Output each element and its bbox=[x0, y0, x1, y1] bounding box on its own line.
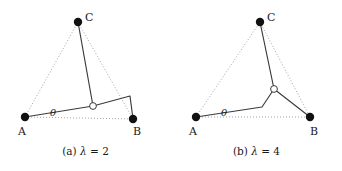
panel-b-vertex-B bbox=[306, 113, 314, 121]
panel-b-edge-AC bbox=[196, 22, 260, 117]
panel-b-caption: (b) λ = 4 bbox=[171, 146, 342, 157]
panel-b-label-A: A bbox=[189, 126, 197, 137]
panel-a-junction-point bbox=[90, 103, 97, 110]
panel-a-vertex-A bbox=[21, 113, 29, 121]
panel-a-dotted-triangle bbox=[25, 22, 133, 119]
panel-a-vertex-B bbox=[129, 115, 137, 123]
panel-a-caption-symbol: λ bbox=[80, 145, 87, 157]
figure-root: A B C θ (a) λ = 2 bbox=[0, 0, 342, 171]
panel-a-spur-junction-C bbox=[78, 22, 93, 106]
panel-a-edge-AC bbox=[25, 22, 78, 117]
panel-a-label-B: B bbox=[133, 126, 141, 137]
panel-b-vertex-C bbox=[256, 18, 264, 26]
panel-b-caption-relation: = bbox=[261, 145, 270, 157]
panel-b-caption-prefix: (b) bbox=[233, 145, 248, 157]
panel-a-path-A-junction-bend-B bbox=[25, 96, 133, 119]
panel-b-label-B: B bbox=[310, 126, 318, 137]
panel-a-caption-value: 2 bbox=[102, 145, 109, 157]
panel-a-label-A: A bbox=[18, 126, 26, 137]
panel-a-edge-AB bbox=[25, 117, 133, 119]
panel-b-angle-theta-label: θ bbox=[221, 108, 227, 118]
panel-a-label-C: C bbox=[85, 12, 93, 23]
panel-b-caption-value: 4 bbox=[273, 145, 280, 157]
panel-a-caption-relation: = bbox=[90, 145, 99, 157]
panel-b-label-C: C bbox=[267, 12, 275, 23]
panel-b-junction-point bbox=[271, 86, 278, 93]
panel-a-solid-network bbox=[25, 22, 133, 119]
panel-b-vertex-A bbox=[192, 113, 200, 121]
panel-b-spur-junction-C bbox=[260, 22, 274, 89]
panel-b-path-A-bend-junction-B bbox=[196, 89, 310, 117]
panel-a-caption-prefix: (a) bbox=[62, 145, 76, 157]
panel-b-caption-symbol: λ bbox=[251, 145, 258, 157]
panel-b-dotted-triangle bbox=[196, 22, 310, 117]
figure-panel-a: A B C θ (a) λ = 2 bbox=[0, 0, 171, 171]
panel-a-vertices bbox=[21, 18, 137, 123]
panel-a-vertex-C bbox=[74, 18, 82, 26]
panel-a-angle-theta-label: θ bbox=[50, 108, 56, 118]
panel-b-solid-network bbox=[196, 22, 310, 117]
figure-panel-b: A B C θ (b) λ = 4 bbox=[171, 0, 342, 171]
panel-b-edge-CB bbox=[260, 22, 310, 117]
panel-a-caption: (a) λ = 2 bbox=[0, 146, 171, 157]
